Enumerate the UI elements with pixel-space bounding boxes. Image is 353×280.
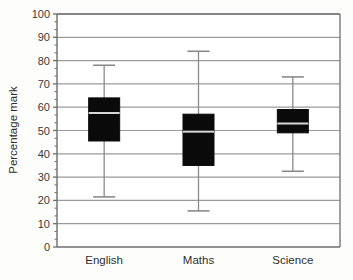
y-tick-label-100: 100 <box>32 8 50 20</box>
box-iqr <box>183 114 214 165</box>
y-tick-label-50: 50 <box>38 125 50 137</box>
y-tick-label-20: 20 <box>38 194 50 206</box>
box-plot-chart: 0102030405060708090100EnglishMathsScienc… <box>0 0 353 280</box>
y-tick-label-0: 0 <box>44 241 50 253</box>
y-tick-label-80: 80 <box>38 55 50 67</box>
x-category-label-science: Science <box>272 254 313 266</box>
chart-canvas: 0102030405060708090100EnglishMathsScienc… <box>0 0 353 280</box>
box-iqr <box>89 98 120 141</box>
y-tick-label-40: 40 <box>38 148 50 160</box>
y-tick-label-70: 70 <box>38 78 50 90</box>
x-category-label-maths: Maths <box>183 254 215 266</box>
x-category-label-english: English <box>85 254 123 266</box>
y-tick-label-90: 90 <box>38 31 50 43</box>
box-iqr <box>277 110 308 133</box>
y-tick-label-10: 10 <box>38 218 50 230</box>
y-axis-title: Percentage mark <box>7 86 19 174</box>
y-tick-label-30: 30 <box>38 171 50 183</box>
y-tick-label-60: 60 <box>38 101 50 113</box>
